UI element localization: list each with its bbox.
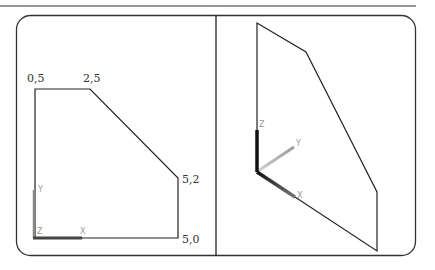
z-axis-label: Z bbox=[259, 120, 265, 129]
ucs-axes-icon-2d: Y Z X bbox=[33, 185, 86, 238]
isometric-outline bbox=[257, 23, 377, 251]
vertex-label-5-2: 5,2 bbox=[182, 173, 200, 186]
right-viewport[interactable]: Z Y X bbox=[257, 23, 377, 251]
cad-figure: 0,5 2,5 5,2 5,0 Y Z X Z Y X bbox=[0, 0, 435, 270]
vertex-label-0-5: 0,5 bbox=[27, 72, 45, 85]
x-axis-label: X bbox=[80, 227, 86, 236]
left-viewport[interactable]: 0,5 2,5 5,2 5,0 Y Z X bbox=[27, 72, 200, 246]
ucs-axes-icon-3d: Z Y X bbox=[257, 120, 303, 200]
y-axis-label: Y bbox=[37, 185, 43, 194]
vertex-label-5-0: 5,0 bbox=[182, 233, 200, 246]
plan-outline bbox=[35, 89, 178, 238]
z-axis-label: Z bbox=[37, 227, 43, 236]
x-axis-label: X bbox=[297, 191, 303, 200]
y-axis-label: Y bbox=[295, 139, 301, 148]
vertex-label-2-5: 2,5 bbox=[83, 72, 101, 85]
x-axis-line bbox=[257, 172, 295, 197]
y-axis-line bbox=[258, 147, 294, 171]
